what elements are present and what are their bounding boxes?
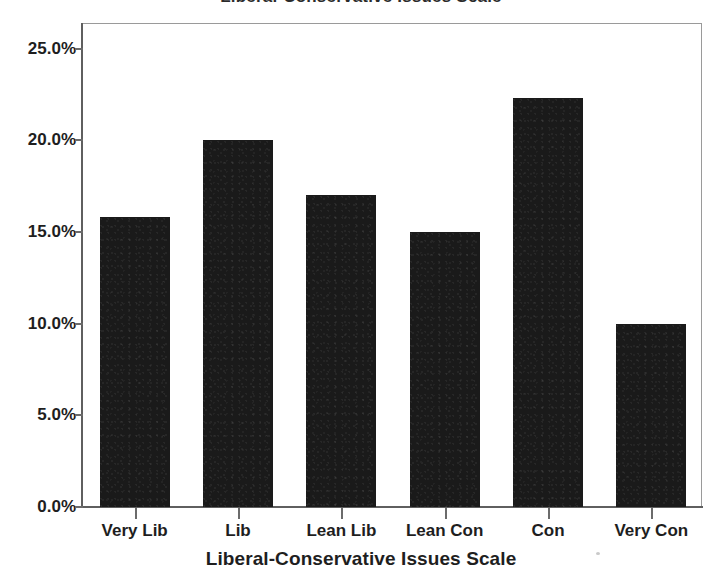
bars-layer [82,23,702,507]
bar-chart-figure: Liberal-Conservative Issues Scale 0.0%5.… [0,0,722,588]
y-tick-mark [75,48,83,50]
x-tick-mark [651,508,653,519]
bar-very-con [616,324,686,507]
y-tick-label: 20.0% [4,130,76,150]
x-tick-mark [341,508,343,519]
x-tick-mark [135,508,137,519]
y-tick-mark [75,506,83,508]
scan-artifact-speck [596,552,600,555]
x-axis-ticks [82,508,702,520]
chart-title: Liberal-Conservative Issues Scale [0,0,722,3]
x-tick-label-very-con: Very Con [586,521,716,541]
bar-very-lib [100,217,170,507]
y-tick-mark [75,414,83,416]
y-tick-label: 10.0% [4,314,76,334]
x-tick-mark [548,508,550,519]
bar-con [513,98,583,507]
bar-lib [203,140,273,507]
y-tick-mark [75,139,83,141]
y-tick-label: 5.0% [4,405,76,425]
y-tick-label: 15.0% [4,222,76,242]
y-tick-mark [75,231,83,233]
bar-lean-lib [306,195,376,507]
y-tick-label: 0.0% [4,497,76,517]
x-axis-title: Liberal-Conservative Issues Scale [0,548,722,570]
y-axis-labels: 0.0%5.0%10.0%15.0%20.0%25.0% [0,0,76,588]
x-tick-mark [238,508,240,519]
x-tick-mark [445,508,447,519]
x-axis-labels: Very LibLibLean LibLean ConConVery Con [82,521,702,545]
bar-lean-con [410,232,480,507]
y-tick-mark [75,323,83,325]
y-tick-label: 25.0% [4,39,76,59]
